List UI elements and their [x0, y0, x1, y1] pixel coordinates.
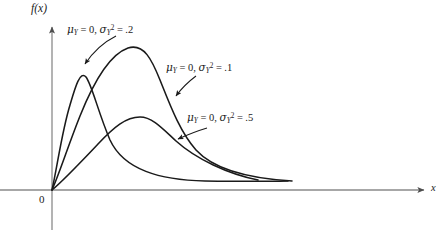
leader-arrow-1	[176, 76, 196, 96]
y-axis-label: f(x)	[31, 3, 47, 15]
sigma-equals: =	[114, 24, 125, 35]
sigma-symbol: σ	[198, 61, 205, 73]
sigma-symbol: σ	[219, 111, 226, 123]
curve-annotation-sigma-0-2: μY=0, σY2=.2	[67, 24, 133, 37]
mu-symbol: μ	[187, 111, 194, 123]
sigma-equals: =	[213, 62, 224, 73]
mu-symbol: μ	[67, 23, 74, 35]
sigma-value: .2	[125, 24, 133, 35]
mu-equals: =	[78, 24, 89, 35]
mu-equals: =	[177, 62, 188, 73]
mu-symbol: μ	[166, 61, 173, 73]
sigma-value: .5	[245, 112, 253, 123]
x-axis-label: x	[431, 183, 436, 194]
origin-label: 0	[39, 194, 45, 205]
curve-annotation-sigma-0-1: μY=0, σY2=.1	[166, 62, 232, 75]
figure-container: f(x) x 0 μY=0, σY2=.2 μY=0, σY2=.1 μY=0,…	[0, 0, 448, 230]
sigma-symbol: σ	[99, 23, 106, 35]
curve-annotation-sigma-0-5: μY=0, σY2=.5	[187, 112, 253, 125]
density-curve-sigma-0-5	[52, 117, 258, 190]
sigma-equals: =	[234, 112, 245, 123]
sigma-value: .1	[224, 62, 232, 73]
density-curve-sigma-0-2	[52, 75, 288, 190]
mu-equals: =	[198, 112, 209, 123]
